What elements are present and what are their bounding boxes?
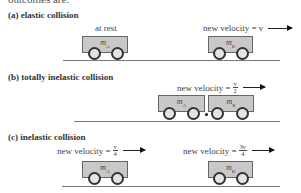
velocity-text: new velocity = (183, 146, 237, 156)
wheel-icon (187, 107, 200, 120)
wheel-icon (236, 107, 249, 120)
velocity-text: new velocity = (57, 146, 111, 156)
velocity-text: new velocity = (177, 83, 231, 93)
arrow-right-icon (243, 87, 265, 88)
arrow-right-icon (268, 28, 292, 29)
wheel-icon (163, 107, 176, 120)
wheel-icon (88, 47, 101, 60)
coupler-icon (205, 113, 208, 116)
wheel-icon (213, 172, 226, 185)
clipped-heading: outcomes are: (8, 0, 69, 5)
wheel-icon (88, 172, 101, 185)
mass-label: mB (209, 97, 253, 108)
wheel-icon (211, 107, 224, 120)
at-rest-label: at rest (95, 23, 117, 33)
arrow-right-icon (123, 150, 145, 151)
wheel-icon (111, 172, 124, 185)
velocity-label-a: new velocity = v 4 (57, 144, 145, 157)
ground-line (63, 60, 280, 61)
arrow-right-icon (252, 150, 274, 151)
section-a-label: (a) elastic collision (8, 10, 79, 20)
velocity-fraction: 3v 4 (239, 144, 248, 157)
velocity-label-a-b: new velocity = v (203, 23, 292, 33)
wheel-icon (111, 47, 124, 60)
velocity-fraction: v 2 (233, 81, 238, 94)
velocity-text: new velocity = v (203, 23, 263, 33)
velocity-fraction: v 4 (113, 144, 118, 157)
velocity-label-b: new velocity = 3v 4 (183, 144, 274, 157)
mass-label: mA (159, 97, 204, 108)
section-b-label: (b) totally inelastic collision (8, 72, 113, 82)
velocity-label-combined: new velocity = v 2 (177, 81, 265, 94)
ground-line (74, 121, 280, 122)
wheel-icon (213, 47, 226, 60)
section-c-label: (c) inelastic collision (8, 132, 86, 142)
wheel-icon (236, 172, 249, 185)
wheel-icon (236, 47, 249, 60)
ground-line (62, 186, 280, 187)
